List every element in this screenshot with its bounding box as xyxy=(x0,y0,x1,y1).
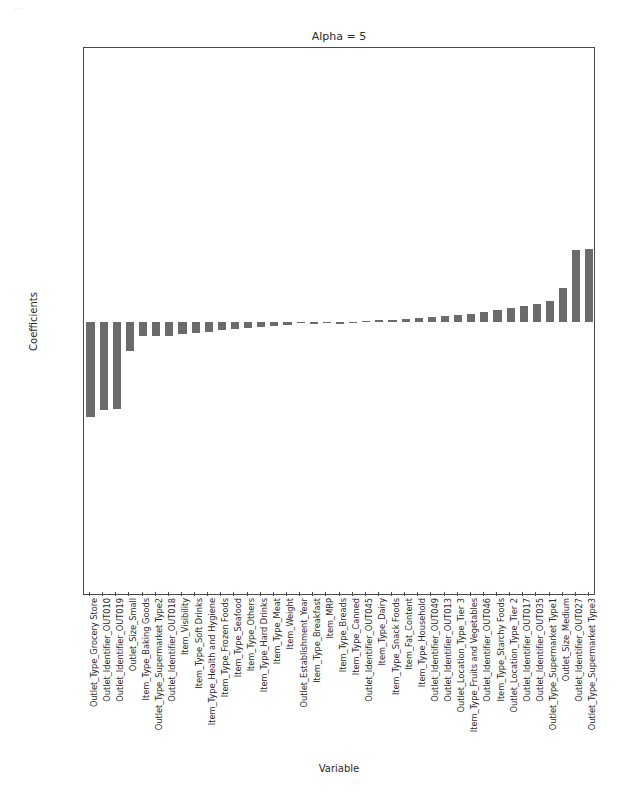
x-tick-label: Item_Type_Hard Drinks xyxy=(260,598,268,692)
bar xyxy=(362,321,370,322)
x-tick-mark xyxy=(535,592,536,596)
x-tick-mark xyxy=(522,592,523,596)
x-tick-mark xyxy=(207,592,208,596)
x-tick-label: Item_Fat_Content xyxy=(405,598,413,670)
bar xyxy=(349,322,357,323)
x-tick-mark xyxy=(194,592,195,596)
bar xyxy=(126,322,134,351)
y-tick-mark xyxy=(83,390,84,391)
x-tick-label: Outlet_Identifier_OUT013 xyxy=(444,598,452,702)
x-tick-mark xyxy=(378,592,379,596)
x-tick-label: Item_Type_Others xyxy=(247,598,255,671)
x-tick-mark xyxy=(181,592,182,596)
scan-artifact: ... xyxy=(14,2,25,11)
x-tick-label: Outlet_Identifier_OUT018 xyxy=(168,598,176,702)
x-tick-mark xyxy=(247,592,248,596)
x-tick-mark xyxy=(588,592,589,596)
bar xyxy=(178,322,186,334)
bar xyxy=(441,316,449,322)
x-tick-mark xyxy=(339,592,340,596)
x-tick-label: Item_Type_Starchy Foods xyxy=(497,598,505,702)
x-tick-label: Outlet_Location_Type_Tier 3 xyxy=(457,598,465,713)
y-tick-mark xyxy=(83,185,84,186)
x-tick-mark xyxy=(417,592,418,596)
x-tick-mark xyxy=(102,592,103,596)
x-tick-mark xyxy=(233,592,234,596)
x-tick-label: Outlet_Type_Supermarket Type2 xyxy=(155,598,163,730)
bar xyxy=(559,288,567,322)
x-tick-mark xyxy=(470,592,471,596)
y-axis-label-text: Coefficients xyxy=(28,292,39,351)
bar xyxy=(572,250,580,322)
bar xyxy=(218,322,226,330)
bar xyxy=(585,249,593,322)
bar xyxy=(192,322,200,333)
bar xyxy=(205,322,213,332)
x-tick-mark xyxy=(496,592,497,596)
x-tick-label: Outlet_Size_Medium xyxy=(562,598,570,681)
bar xyxy=(310,322,318,324)
x-tick-mark xyxy=(128,592,129,596)
x-tick-mark xyxy=(352,592,353,596)
x-tick-label: Item_Type_Seafood xyxy=(234,598,242,677)
x-tick-label: Outlet_Identifier_OUT045 xyxy=(365,598,373,702)
x-tick-mark xyxy=(168,592,169,596)
chart-figure: ... Alpha = 5 Coefficients 8006004002000… xyxy=(0,0,639,807)
x-tick-mark xyxy=(509,592,510,596)
x-tick-mark xyxy=(286,592,287,596)
x-tick-label: Item_Type_Meat xyxy=(273,598,281,664)
bar xyxy=(336,322,344,324)
x-tick-label: Outlet_Identifier_OUT017 xyxy=(523,598,531,702)
x-tick-mark xyxy=(260,592,261,596)
bar xyxy=(283,322,291,325)
bar xyxy=(520,306,528,322)
x-tick-label: Outlet_Type_Supermarket Type1 xyxy=(549,598,557,730)
x-tick-label: Item_Type_Fruits and Vegetables xyxy=(470,598,478,732)
bar xyxy=(244,322,252,328)
bar-series xyxy=(84,48,594,594)
x-tick-mark xyxy=(562,592,563,596)
chart-title: Alpha = 5 xyxy=(83,30,595,43)
x-tick-label: Outlet_Identifier_OUT049 xyxy=(431,598,439,702)
x-tick-mark xyxy=(391,592,392,596)
y-tick-mark xyxy=(83,253,84,254)
x-tick-label: Outlet_Identifier_OUT046 xyxy=(483,598,491,702)
bar xyxy=(231,322,239,329)
plot-area: 8006004002000−200−400−600−800 xyxy=(83,47,595,595)
x-tick-label: Item_Type_Breads xyxy=(339,598,347,672)
x-tick-mark xyxy=(457,592,458,596)
bar xyxy=(113,322,121,409)
y-tick-mark xyxy=(83,116,84,117)
bar xyxy=(402,319,410,322)
bar xyxy=(454,315,462,322)
x-tick-label: Item_Type_Baking Goods xyxy=(142,598,150,700)
bar xyxy=(507,308,515,322)
bar xyxy=(480,312,488,322)
bar xyxy=(100,322,108,410)
x-tick-mark xyxy=(89,592,90,596)
x-tick-label: Item_Type_Canned xyxy=(352,598,360,675)
x-tick-label: Item_Type_Soft Drinks xyxy=(195,598,203,689)
x-tick-label: Outlet_Identifier_OUT010 xyxy=(103,598,111,702)
x-tick-mark xyxy=(220,592,221,596)
x-tick-label: Outlet_Type_Grocery Store xyxy=(90,598,98,707)
x-tick-label: Item_Type_Snack Foods xyxy=(392,598,400,695)
y-tick-label: −800 xyxy=(83,591,84,596)
x-tick-label: Outlet_Identifier_OUT027 xyxy=(575,598,583,702)
bar xyxy=(139,322,147,336)
x-tick-mark xyxy=(444,592,445,596)
x-tick-mark xyxy=(273,592,274,596)
bar xyxy=(86,322,94,417)
x-tick-mark xyxy=(430,592,431,596)
bar xyxy=(165,322,173,336)
x-tick-mark xyxy=(575,592,576,596)
x-tick-mark xyxy=(404,592,405,596)
x-tick-label: Item_Type_Breakfast xyxy=(313,598,321,683)
x-tick-mark xyxy=(299,592,300,596)
x-tick-mark xyxy=(549,592,550,596)
x-tick-label: Item_Type_Frozen Foods xyxy=(221,598,229,697)
x-tick-label: Outlet_Location_Type_Tier 2 xyxy=(510,598,518,713)
bar xyxy=(297,322,305,323)
x-tick-label: Outlet_Size_Small xyxy=(129,598,137,671)
bar xyxy=(323,322,331,323)
